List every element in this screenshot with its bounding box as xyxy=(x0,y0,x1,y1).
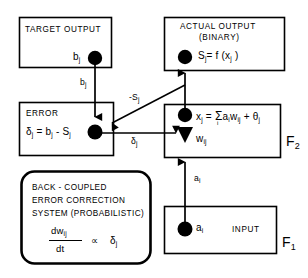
back-coupled-rhs: δj xyxy=(110,236,117,248)
back-coupled-proportional-symbol: ∝ xyxy=(91,236,98,246)
error-minus-s: - S xyxy=(56,126,69,137)
error-title: ERROR xyxy=(26,110,59,118)
edge-label-neg-s-j: -Sj xyxy=(129,93,140,104)
edge-label-a-i: ai xyxy=(194,174,201,185)
activation-w-subscript: ij xyxy=(237,116,240,123)
edge-label-b-j: bj xyxy=(80,78,87,89)
activation-plus-theta: + θ xyxy=(244,111,259,122)
activation-sigma-subscript: i xyxy=(217,120,219,126)
activation-formula: xj = Σiaiwij + θj xyxy=(196,110,260,124)
error-b-subscript: j xyxy=(51,131,53,138)
actual-close-paren: ) xyxy=(232,50,239,61)
weight-synapse-triangle xyxy=(177,127,193,143)
diagram-canvas: TARGET OUTPUT bj ACTUAL OUTPUT (BINARY) … xyxy=(0,0,308,278)
edge-neg-s-subscript: j xyxy=(138,96,140,103)
activation-x-subscript: j xyxy=(201,116,203,123)
edge-a-subscript: i xyxy=(199,177,201,184)
back-coupled-line1: BACK - COUPLED xyxy=(32,184,107,192)
target-b-subscript: j xyxy=(79,56,81,63)
f2-subscript: 2 xyxy=(295,141,300,151)
edge-b-subscript: j xyxy=(85,81,87,88)
error-node xyxy=(88,125,103,140)
diagram-vector-layer xyxy=(0,0,308,278)
frac-dw-subscript: ij xyxy=(64,230,67,237)
error-s-subscript: j xyxy=(69,131,71,138)
input-node xyxy=(178,222,193,237)
back-coupled-line3: SYSTEM (PROBABILISTIC) xyxy=(32,210,144,218)
input-title: INPUT xyxy=(232,226,260,234)
activation-eq: = xyxy=(206,111,215,122)
error-formula: δj = bj - Sj xyxy=(26,127,71,139)
edge-label-delta-j: δj xyxy=(131,137,138,148)
target-output-title: TARGET OUTPUT xyxy=(25,26,101,34)
edge-neg-s-symbol: -S xyxy=(129,92,138,102)
layer-label-f2: F2 xyxy=(286,134,300,151)
actual-output-title-line2: (BINARY) xyxy=(199,34,240,42)
target-output-node-label: bj xyxy=(73,52,80,64)
bc-delta-subscript: j xyxy=(116,240,118,247)
weight-label: wij xyxy=(196,134,207,146)
back-coupled-fraction-numerator: dwij xyxy=(51,226,67,238)
activation-theta-subscript: j xyxy=(258,116,260,123)
activation-node xyxy=(178,108,192,122)
error-eq: = b xyxy=(36,126,51,137)
actual-eq: = f (x xyxy=(207,50,231,61)
actual-output-node xyxy=(178,50,192,64)
actual-output-formula: Sj= f (xj ) xyxy=(198,51,238,63)
actual-output-title-line1: ACTUAL OUTPUT xyxy=(180,23,256,31)
back-coupled-fraction-bar xyxy=(49,240,82,241)
back-coupled-line2: ERROR CORRECTION xyxy=(32,197,125,205)
target-output-node xyxy=(88,51,102,65)
weight-subscript: ij xyxy=(203,138,206,145)
activation-sigma-group: Σi xyxy=(215,110,223,122)
input-a-subscript: i xyxy=(202,227,204,234)
edge-delta-subscript: j xyxy=(136,140,138,147)
back-coupled-fraction-denominator: dt xyxy=(56,244,64,254)
frac-dw-symbol: dw xyxy=(51,225,64,236)
actual-s-symbol: S xyxy=(198,50,205,61)
f1-subscript: 1 xyxy=(291,242,296,252)
f2-symbol: F xyxy=(286,133,295,149)
error-delta-subscript: j xyxy=(32,131,34,138)
input-node-label: ai xyxy=(196,223,203,235)
f1-symbol: F xyxy=(282,234,291,250)
layer-label-f1: F1 xyxy=(282,235,296,252)
